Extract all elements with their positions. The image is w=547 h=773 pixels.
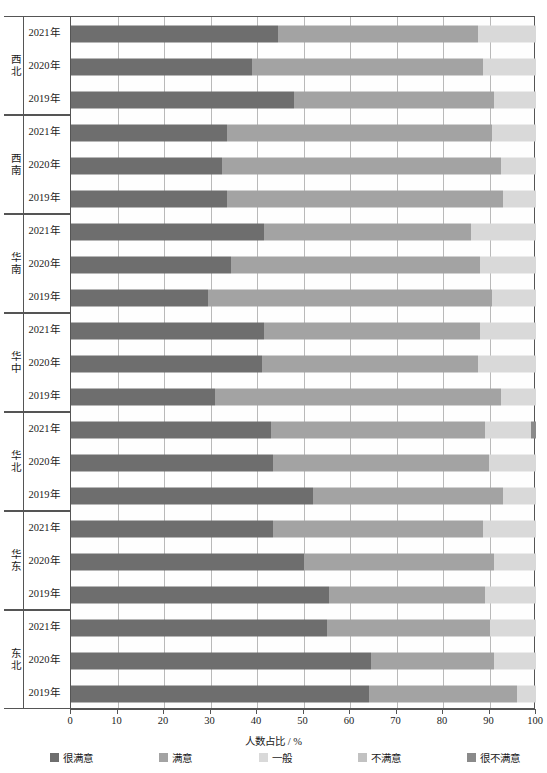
stacked-bar-chart: 西北2021年2020年2019年西南2021年2020年2019年华南2021… bbox=[0, 0, 547, 773]
bar-segment-很满意 bbox=[71, 421, 271, 438]
x-tick bbox=[256, 709, 257, 714]
bar-segment-很满意 bbox=[71, 487, 313, 504]
bar-segment-满意 bbox=[273, 454, 489, 471]
bar-segment-一般 bbox=[501, 388, 536, 405]
bar-row bbox=[71, 355, 536, 372]
year-label: 2021年 bbox=[22, 27, 66, 38]
year-label: 2021年 bbox=[22, 621, 66, 632]
bar-segment-一般 bbox=[483, 58, 536, 75]
bar-segment-很满意 bbox=[71, 388, 215, 405]
region-label-text: 华北 bbox=[9, 450, 20, 473]
region-label-text: 华中 bbox=[9, 351, 20, 374]
bar-row bbox=[71, 256, 536, 273]
legend-item-很满意[interactable]: 很满意 bbox=[50, 750, 93, 765]
legend-swatch-icon bbox=[259, 753, 268, 762]
x-tick-label: 40 bbox=[236, 716, 276, 727]
legend-item-不满意[interactable]: 不满意 bbox=[358, 750, 401, 765]
bar-segment-很满意 bbox=[71, 223, 264, 240]
bar-segment-满意 bbox=[264, 322, 480, 339]
bar-segment-一般 bbox=[478, 355, 536, 372]
year-label: 2019年 bbox=[22, 489, 66, 500]
bar-row bbox=[71, 58, 536, 75]
x-tick bbox=[442, 709, 443, 714]
year-label: 2019年 bbox=[22, 687, 66, 698]
legend-label: 很满意 bbox=[63, 750, 93, 765]
bar-segment-很满意 bbox=[71, 25, 278, 42]
bar-segment-很满意 bbox=[71, 355, 262, 372]
bar-segment-满意 bbox=[262, 355, 478, 372]
x-tick-label: 70 bbox=[376, 716, 416, 727]
y-axis-region-labels: 西北2021年2020年2019年西南2021年2020年2019年华南2021… bbox=[4, 16, 70, 709]
bar-segment-满意 bbox=[264, 223, 471, 240]
x-tick bbox=[349, 709, 350, 714]
legend-swatch-icon bbox=[159, 753, 168, 762]
bar-row bbox=[71, 421, 536, 438]
bar-segment-很满意 bbox=[71, 586, 329, 603]
bar-segment-一般 bbox=[480, 322, 536, 339]
bar-row bbox=[71, 685, 536, 702]
bar-segment-很满意 bbox=[71, 124, 227, 141]
bar-segment-满意 bbox=[304, 553, 495, 570]
legend-item-满意[interactable]: 满意 bbox=[159, 750, 192, 765]
x-tick bbox=[117, 709, 118, 714]
bar-segment-很满意 bbox=[71, 652, 371, 669]
x-tick-label: 60 bbox=[329, 716, 369, 727]
bar-row bbox=[71, 454, 536, 471]
bar-segment-很满意 bbox=[71, 91, 294, 108]
bar-segment-很满意 bbox=[71, 520, 273, 537]
bar-segment-满意 bbox=[371, 652, 494, 669]
bar-row bbox=[71, 190, 536, 207]
x-tick bbox=[70, 709, 71, 714]
legend-item-很不满意[interactable]: 很不满意 bbox=[467, 750, 520, 765]
region-label: 华中 bbox=[5, 314, 23, 411]
bar-segment-一般 bbox=[471, 223, 536, 240]
year-label: 2019年 bbox=[22, 192, 66, 203]
x-tick-label: 20 bbox=[143, 716, 183, 727]
x-tick bbox=[210, 709, 211, 714]
bar-segment-一般 bbox=[494, 91, 536, 108]
x-tick bbox=[163, 709, 164, 714]
bar-segment-一般 bbox=[492, 124, 536, 141]
legend-swatch-icon bbox=[358, 753, 367, 762]
year-label: 2021年 bbox=[22, 423, 66, 434]
year-label: 2019年 bbox=[22, 93, 66, 104]
bar-segment-满意 bbox=[329, 586, 485, 603]
x-tick-label: 80 bbox=[422, 716, 462, 727]
legend-label: 一般 bbox=[272, 750, 292, 765]
bar-row bbox=[71, 652, 536, 669]
bar-segment-满意 bbox=[227, 124, 492, 141]
bar-row bbox=[71, 91, 536, 108]
bar-segment-满意 bbox=[369, 685, 518, 702]
bar-segment-很满意 bbox=[71, 454, 273, 471]
bar-row bbox=[71, 289, 536, 306]
x-tick-label: 30 bbox=[190, 716, 230, 727]
x-tick bbox=[535, 709, 536, 714]
x-tick-label: 90 bbox=[469, 716, 509, 727]
year-label: 2020年 bbox=[22, 60, 66, 71]
bar-segment-一般 bbox=[503, 190, 536, 207]
bar-row bbox=[71, 520, 536, 537]
x-tick bbox=[396, 709, 397, 714]
bar-segment-满意 bbox=[231, 256, 480, 273]
year-label: 2020年 bbox=[22, 555, 66, 566]
bar-segment-满意 bbox=[271, 421, 485, 438]
x-tick-label: 0 bbox=[50, 716, 90, 727]
year-label: 2020年 bbox=[22, 456, 66, 467]
year-label: 2021年 bbox=[22, 522, 66, 533]
legend-label: 满意 bbox=[172, 750, 192, 765]
bar-segment-一般 bbox=[485, 586, 536, 603]
x-tick-label: 50 bbox=[283, 716, 323, 727]
bar-segment-满意 bbox=[208, 289, 492, 306]
bar-segment-满意 bbox=[252, 58, 482, 75]
bar-segment-满意 bbox=[327, 619, 490, 636]
bar-segment-很满意 bbox=[71, 157, 222, 174]
legend-swatch-icon bbox=[467, 753, 476, 762]
region-label: 华北 bbox=[5, 413, 23, 510]
bar-segment-一般 bbox=[492, 289, 536, 306]
bar-segment-满意 bbox=[313, 487, 504, 504]
chart-legend: 很满意满意一般不满意很不满意 bbox=[50, 750, 520, 765]
year-label: 2020年 bbox=[22, 258, 66, 269]
legend-item-一般[interactable]: 一般 bbox=[259, 750, 292, 765]
bar-row bbox=[71, 619, 536, 636]
year-label: 2021年 bbox=[22, 324, 66, 335]
